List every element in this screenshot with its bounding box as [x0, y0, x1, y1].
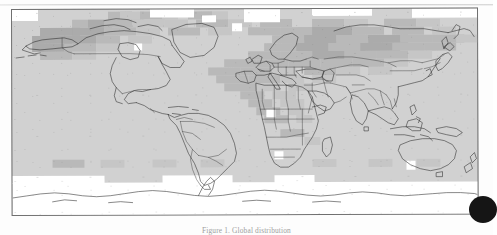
- border-iran: [330, 83, 350, 103]
- border-congo: [274, 109, 290, 131]
- coastline-britain: [252, 55, 262, 63]
- border-afghan: [346, 85, 364, 99]
- border-russia-kazakh: [324, 57, 396, 67]
- coastline-black-sea: [296, 69, 324, 79]
- coastline-antarctic-peninsula: [199, 177, 215, 195]
- coastline-indonesia-1: [390, 127, 430, 133]
- coastline-newzealand-s: [464, 163, 472, 173]
- coastline-us-east: [150, 57, 170, 90]
- border-mideast-2: [324, 83, 328, 97]
- coastline-sakhalin: [442, 37, 448, 49]
- border-us-canada: [74, 54, 160, 57]
- page-edge-line-secondary: [0, 5, 493, 6]
- border-us-mexico: [122, 90, 150, 94]
- coastline-baltic: [284, 59, 306, 61]
- coastline-indonesia-2: [394, 135, 432, 141]
- coastline-aleutians: [16, 55, 46, 58]
- coastline-india: [350, 95, 368, 125]
- coastline-antarctica-detail: [53, 199, 341, 203]
- coastline-arabia: [308, 91, 334, 111]
- coastline-hudson-bay: [118, 43, 140, 60]
- coastline-and-borders-layer: [12, 9, 478, 215]
- scan-blob-artifact: [469, 196, 497, 223]
- coastline-mexico-cam: [136, 103, 168, 115]
- figure-caption: Figure 1. Global distribution: [0, 227, 493, 235]
- coastline-kamchatka: [452, 25, 460, 39]
- coastline-ireland: [246, 57, 252, 63]
- coastline-alaska-panhandle: [22, 46, 40, 54]
- border-colombia-venezuela: [176, 117, 192, 119]
- border-russia-china: [422, 55, 444, 69]
- border-africa-s1: [266, 133, 308, 137]
- coastline-scandinavia: [270, 33, 298, 59]
- border-brazil-w: [180, 121, 198, 155]
- coastline-canada-arch2: [104, 19, 136, 23]
- border-sea-1: [386, 95, 396, 109]
- border-iberia: [244, 71, 248, 83]
- coastline-newguinea: [436, 127, 462, 137]
- coastline-greenland: [172, 23, 218, 57]
- coastline-siberia-ne: [448, 29, 474, 37]
- border-argentina-chile: [190, 149, 200, 185]
- border-n-africa-4: [298, 87, 300, 109]
- coastline-sri-lanka: [364, 127, 368, 131]
- coastline-sea-asia: [368, 107, 398, 125]
- border-mongolia: [388, 61, 422, 71]
- border-argentina-uruguay: [208, 157, 222, 165]
- coastline-canada-arch1: [90, 25, 130, 30]
- border-n-africa-3: [286, 85, 288, 109]
- coastline-china-south: [392, 87, 398, 109]
- coastline-antarctica: [13, 190, 478, 198]
- coastline-horn-africa: [312, 105, 326, 115]
- border-central-asia-2: [336, 75, 370, 81]
- border-eu-1: [256, 61, 270, 71]
- border-brazil-s: [198, 149, 226, 157]
- coastline-tasmania: [437, 172, 443, 177]
- coastline-africa: [256, 83, 318, 167]
- coastline-canada-arctic: [78, 30, 172, 45]
- border-n-africa-1: [262, 89, 264, 109]
- coastline-siberia-n: [334, 25, 448, 33]
- border-eu-3: [278, 63, 286, 75]
- coastline-gulf-mexico: [124, 90, 150, 104]
- border-brazil-n: [180, 121, 214, 127]
- coastline-alaska: [26, 38, 78, 50]
- coastline-mediterranean-n: [256, 73, 296, 75]
- border-eu-2: [272, 61, 286, 67]
- coastline-japan: [436, 53, 452, 71]
- coastline-canada-arch3: [138, 25, 162, 31]
- coastline-china-east: [398, 59, 440, 87]
- coastline-borneo: [406, 119, 422, 131]
- world-map-frame: [11, 8, 479, 216]
- coastline-australia: [398, 139, 456, 171]
- border-india-ne: [368, 91, 384, 105]
- coastline-madagascar: [322, 137, 332, 157]
- border-central-asia-1: [330, 65, 368, 69]
- coastline-newzealand-n: [470, 153, 476, 163]
